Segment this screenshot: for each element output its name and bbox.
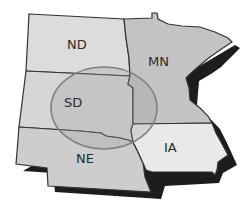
label-ia: IA [164,140,177,155]
label-nd: ND [67,37,87,52]
regional-map: ND SD NE MN IA [0,0,246,204]
label-sd: SD [64,95,82,110]
label-mn: MN [148,54,169,69]
map-svg: ND SD NE MN IA [0,0,246,204]
label-ne: NE [76,151,94,166]
